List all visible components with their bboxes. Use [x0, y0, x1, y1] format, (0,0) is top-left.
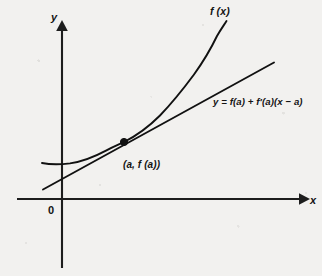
function-curve-group — [42, 21, 227, 164]
linearization-diagram: f (x) y = f(a) + f′(a)(x − a) (a, f (a))… — [0, 0, 322, 276]
tangent-point-label: (a, f (a)) — [123, 159, 161, 170]
y-axis-label: y — [50, 11, 58, 23]
x-axis-label: x — [309, 194, 317, 206]
tangent-equation-label: y = f(a) + f′(a)(x − a) — [212, 96, 303, 107]
figure-canvas: f (x) y = f(a) + f′(a)(x − a) (a, f (a))… — [0, 0, 322, 276]
tangent-point-marker — [120, 138, 127, 145]
axes-group — [17, 20, 310, 268]
x-axis-arrowhead-icon — [299, 193, 310, 205]
tangent-line-group — [43, 63, 274, 190]
function-curve-path — [42, 21, 227, 164]
function-curve-label: f (x) — [210, 5, 230, 17]
y-axis-arrowhead-icon — [56, 20, 68, 31]
tangent-line-path — [43, 63, 274, 190]
origin-label: 0 — [48, 204, 54, 216]
